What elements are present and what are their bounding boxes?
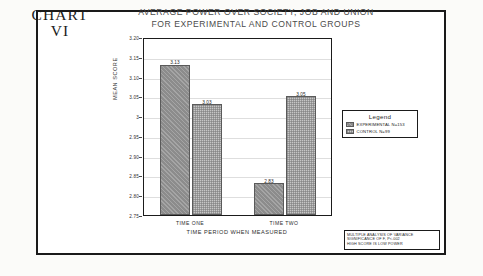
chart-number-line1: CHART (14, 7, 106, 23)
y-tick-label: 3.15 (129, 55, 139, 60)
chart-title-line2: FOR EXPERIMENTAL AND CONTROL GROUPS (110, 18, 402, 30)
y-axis-ticks: 3.203.153.103.0532.952.902.852.802.75 (120, 38, 142, 216)
legend-item: CONTROL N=99 (346, 129, 414, 134)
legend: Legend EXPERIMENTAL N=153 CONTROL N=99 (342, 110, 418, 138)
y-tick-label: 2.95 (129, 134, 139, 139)
footnote-box: MULTIPLE ANALYSIS OF VARIANCE SIGNIFICAN… (344, 230, 440, 250)
y-tick-mark (139, 38, 142, 39)
x-axis-label: TIME PERIOD WHEN MEASURED (143, 229, 331, 235)
y-tick-mark (139, 58, 142, 59)
legend-title: Legend (346, 113, 414, 120)
y-tick-mark (139, 78, 142, 79)
legend-swatch-control (346, 129, 354, 134)
chart-number-line2: VI (14, 23, 106, 39)
chart-title-line1: AVERAGE POWER OVER SOCIETY, JOB AND UNIO… (110, 6, 402, 18)
y-tick-label: 2.75 (129, 214, 139, 219)
y-tick-label: 2.90 (129, 154, 139, 159)
bar-value-label: 3.13 (160, 60, 190, 65)
y-tick-label: 2.85 (129, 174, 139, 179)
legend-item: EXPERIMENTAL N=153 (346, 122, 414, 127)
y-tick-mark (139, 137, 142, 138)
bar-control (286, 96, 316, 215)
y-tick-mark (139, 216, 142, 217)
x-tick-label: TIME ONE (176, 220, 204, 226)
footnote-line3: HIGH SCORE IS LOW POWER (347, 242, 437, 247)
y-tick-mark (139, 97, 142, 98)
axes-right-edge (331, 38, 332, 216)
chart-page: CHART VI AVERAGE POWER OVER SOCIETY, JOB… (0, 0, 483, 276)
bar-control (192, 104, 222, 215)
x-tick-label: TIME TWO (270, 220, 299, 226)
bar-value-label: 3.05 (286, 92, 316, 97)
y-tick-label: 2.80 (129, 194, 139, 199)
y-tick-label: 3.05 (129, 95, 139, 100)
y-tick-mark (139, 196, 142, 197)
bar-experimental (254, 183, 284, 215)
y-tick-label: 3.10 (129, 75, 139, 80)
bar-value-label: 3.03 (192, 100, 222, 105)
y-tick-mark (139, 117, 142, 118)
legend-swatch-experimental (346, 122, 354, 127)
legend-label-experimental: EXPERIMENTAL N=153 (357, 122, 405, 127)
bar-value-label: 2.83 (254, 179, 284, 184)
axes-box: 3.133.032.833.05 (143, 38, 331, 216)
y-axis-label: MEAN SCORE (112, 57, 118, 100)
y-tick-mark (139, 176, 142, 177)
chart-number: CHART VI (14, 7, 106, 40)
y-tick-label: 3.20 (129, 36, 139, 41)
y-tick-mark (139, 157, 142, 158)
bar-experimental (160, 65, 190, 215)
plot-area: MEAN SCORE 3.203.153.103.0532.952.902.85… (115, 38, 335, 218)
legend-label-control: CONTROL N=99 (357, 129, 390, 134)
chart-title: AVERAGE POWER OVER SOCIETY, JOB AND UNIO… (110, 6, 402, 31)
